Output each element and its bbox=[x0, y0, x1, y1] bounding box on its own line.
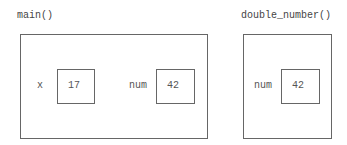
variable-name-num-double: num bbox=[254, 80, 272, 91]
frame-title-double-number: double_number() bbox=[241, 10, 331, 21]
variable-value-num-double: 42 bbox=[281, 69, 320, 104]
variable-value-x: 17 bbox=[57, 69, 95, 104]
frame-title-main: main() bbox=[17, 10, 53, 21]
variable-value-num-main: 42 bbox=[156, 69, 195, 104]
variable-name-num-main: num bbox=[129, 80, 147, 91]
variable-name-x: x bbox=[37, 80, 43, 91]
